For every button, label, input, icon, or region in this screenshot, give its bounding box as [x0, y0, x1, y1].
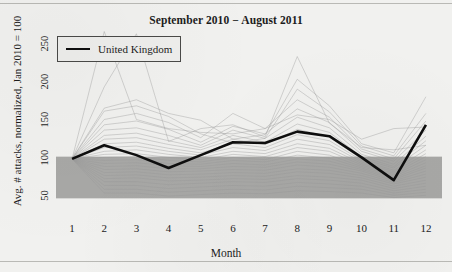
- chart-page: September 2010 − August 2011 Avg. # atta…: [0, 0, 452, 272]
- legend-line-swatch: [66, 48, 90, 51]
- background-series-line: [72, 79, 426, 159]
- background-series-line: [72, 100, 426, 159]
- chart-legend: United Kingdom: [57, 36, 181, 62]
- legend-entry-label: United Kingdom: [98, 43, 172, 55]
- y-axis-label: Avg. # attacks, normalized, Jan 2010 = 1…: [11, 0, 23, 231]
- background-density-band: [56, 157, 442, 199]
- chart-title: September 2010 − August 2011: [0, 14, 452, 26]
- background-series-line: [72, 109, 426, 161]
- x-axis-label: Month: [0, 247, 452, 259]
